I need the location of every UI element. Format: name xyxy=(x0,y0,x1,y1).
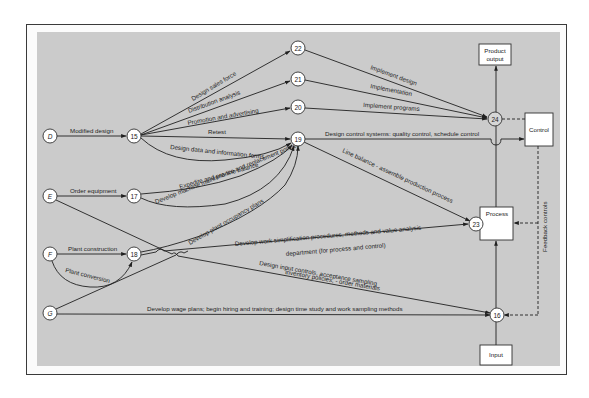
node-23-label: 23 xyxy=(472,221,480,228)
node-e-label: E xyxy=(48,193,53,200)
label-feedback-controls: Feedback controls xyxy=(541,201,548,252)
process-label: Process xyxy=(486,210,508,217)
product-output-box: Product output xyxy=(479,44,511,65)
control-box: Control xyxy=(525,113,553,146)
label-wage-plans: Develop wage plans; begin hiring and tra… xyxy=(147,305,403,312)
edge-g-16 xyxy=(57,314,490,315)
node-18: 18 xyxy=(127,247,141,261)
node-24-label: 24 xyxy=(491,116,499,123)
node-d: D xyxy=(43,129,57,143)
product-output-label-2: output xyxy=(486,55,503,62)
node-15-label: 15 xyxy=(130,133,138,140)
node-e: E xyxy=(43,189,57,203)
label-work-simplification-1: Develop work simplification procedures, … xyxy=(234,224,421,247)
label-retest: Retest xyxy=(208,128,226,135)
node-20-label: 20 xyxy=(294,104,302,111)
node-15: 15 xyxy=(127,129,141,143)
node-19: 19 xyxy=(291,132,305,146)
node-23: 23 xyxy=(469,217,483,231)
edge-15-19-retest xyxy=(141,136,290,139)
edge-19-23 xyxy=(304,142,470,221)
label-order-equipment: Order equipment xyxy=(70,187,117,194)
node-20: 20 xyxy=(291,100,305,114)
edge-e-16 xyxy=(56,200,490,313)
edge-19-control xyxy=(305,139,524,145)
node-17-label: 17 xyxy=(130,193,138,200)
process-box: Process xyxy=(480,207,513,240)
node-d-label: D xyxy=(48,133,53,140)
edge-21-24 xyxy=(305,80,487,118)
node-21-label: 21 xyxy=(294,76,302,83)
label-design-data-forms: Design data and information forms xyxy=(170,143,265,160)
node-g: G xyxy=(43,306,57,320)
node-22: 22 xyxy=(291,41,305,55)
node-22-label: 22 xyxy=(294,45,302,52)
node-g-label: G xyxy=(47,310,52,317)
label-modified-design: Modified design xyxy=(70,127,114,134)
label-line-balance: Line balance - assemble production proce… xyxy=(342,147,455,205)
label-plant-construction: Plant construction xyxy=(68,245,118,252)
control-label: Control xyxy=(529,126,549,133)
product-output-label-1: Product xyxy=(484,47,506,54)
node-16: 16 xyxy=(490,308,504,322)
edge-g-18-link xyxy=(56,251,188,309)
node-17: 17 xyxy=(127,189,141,203)
node-16-label: 16 xyxy=(493,312,501,319)
node-18-label: 18 xyxy=(130,251,138,258)
label-work-simplification-2: department (for process and control) xyxy=(285,241,385,257)
edge-15-21 xyxy=(141,81,290,135)
node-21: 21 xyxy=(291,72,305,86)
input-box: Input xyxy=(480,345,512,365)
node-f: F xyxy=(43,247,57,261)
label-design-control-systems: Design control systems: quality control,… xyxy=(325,130,479,137)
label-plant-conversion: Plant conversion xyxy=(65,266,112,284)
node-19-label: 19 xyxy=(294,136,302,143)
network-diagram: Modified design Design sales force Distr… xyxy=(0,0,589,398)
input-label: Input xyxy=(489,351,503,358)
node-24: 24 xyxy=(488,112,502,126)
